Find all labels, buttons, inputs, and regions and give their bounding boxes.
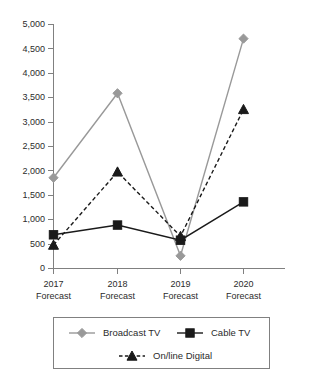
x-axis-tick-marks [54,269,244,275]
y-axis-tick-labels: 05001,0001,5002,0002,5003,0003,5004,0004… [22,19,45,273]
x-axis-tick-labels: 2017Forecast2018Forecast2019Forecast2020… [36,279,262,301]
x-tick-label-line: 2018 [107,279,127,289]
x-tick-label-line: 2017 [43,279,63,289]
legend-label: Cable TV [211,327,251,338]
legend-marker-square-icon [186,329,194,337]
data-point-cable-tv [239,198,247,206]
legend-marker-diamond-icon [77,328,86,337]
y-tick-label: 4,500 [22,44,45,54]
y-tick-label: 500 [30,239,45,249]
data-point-broadcast-tv [239,34,248,43]
legend-item-broadcast-tv[interactable]: Broadcast TV [69,327,161,338]
x-category-label: 2020Forecast [226,279,262,301]
legend: Broadcast TVCable TVOn/line Digital [69,327,251,361]
x-tick-label-line: 2020 [233,279,253,289]
y-tick-label: 0 [40,263,45,273]
series-line-cable-tv [54,202,244,240]
y-tick-label: 1,500 [22,190,45,200]
data-series-lines [54,39,244,256]
y-tick-label: 5,000 [22,19,45,29]
legend-marker-triangle-icon [127,351,137,360]
legend-label: On/line Digital [153,350,212,361]
y-tick-label: 4,000 [22,68,45,78]
data-point-cable-tv [49,231,57,239]
y-tick-label: 1,000 [22,214,45,224]
y-tick-label: 3,500 [22,92,45,102]
y-tick-label: 2,000 [22,166,45,176]
data-point-on-line-digital [239,104,249,113]
legend-item-cable-tv[interactable]: Cable TV [177,327,251,338]
data-point-on-line-digital [113,167,123,176]
series-line-on-line-digital [54,109,244,245]
x-tick-label-line: 2019 [170,279,190,289]
y-tick-label: 2,500 [22,141,45,151]
forecast-line-chart: 05001,0001,5002,0002,5003,0003,5004,0004… [0,0,324,381]
x-category-label: 2019Forecast [163,279,199,301]
legend-border [54,318,270,369]
data-point-on-line-digital [49,240,59,249]
chart-canvas: 05001,0001,5002,0002,5003,0003,5004,0004… [0,0,324,381]
x-category-label: 2017Forecast [36,279,72,301]
x-tick-label-line: Forecast [163,291,199,301]
x-category-label: 2018Forecast [100,279,136,301]
legend-item-on-line-digital[interactable]: On/line Digital [119,350,212,361]
x-tick-label-line: Forecast [36,291,72,301]
legend-label: Broadcast TV [103,327,161,338]
data-point-cable-tv [113,221,121,229]
series-line-broadcast-tv [54,39,244,256]
x-tick-label-line: Forecast [100,291,136,301]
y-tick-label: 3,000 [22,117,45,127]
data-point-broadcast-tv [176,251,185,260]
data-series-markers [49,34,249,260]
x-tick-label-line: Forecast [226,291,262,301]
